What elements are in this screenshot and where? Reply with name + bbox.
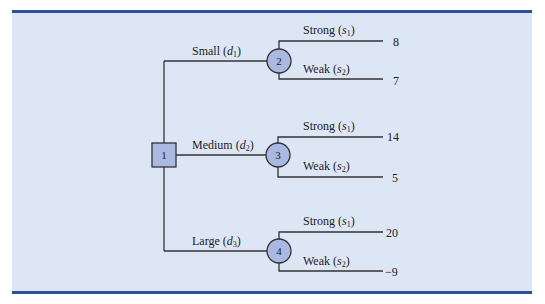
decision-node-label: 1: [152, 150, 176, 161]
decision-label-medium: Medium (d2): [192, 139, 254, 153]
payoff-value: 7: [393, 75, 399, 87]
chance-node-label: 4: [267, 246, 291, 257]
outcome-label-weak: Weak (s2): [303, 63, 350, 77]
outcome-label-weak: Weak (s2): [303, 255, 350, 269]
outcome-label-strong: Strong (s1): [303, 120, 355, 134]
outcome-label-strong: Strong (s1): [303, 215, 355, 229]
decision-label-large: Large (d3): [192, 235, 241, 249]
decision-label-small: Small (d1): [192, 45, 241, 59]
chance-node-label: 3: [266, 150, 290, 161]
outcome-label-strong: Strong (s1): [303, 24, 355, 38]
payoff-value: 20: [386, 227, 398, 239]
payoff-value: 5: [392, 172, 398, 184]
outcome-label-weak: Weak (s2): [303, 160, 350, 174]
payoff-value: 8: [393, 36, 399, 48]
payoff-value: −9: [385, 266, 398, 278]
chance-node-label: 2: [267, 56, 291, 67]
payoff-value: 14: [387, 131, 399, 143]
